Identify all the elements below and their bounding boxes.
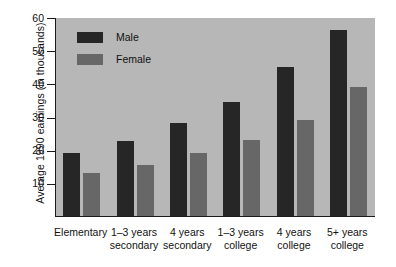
legend-item-male: Male: [77, 26, 151, 48]
bar-chart-figure: Average 1990 earnings (in thousands) 102…: [0, 0, 396, 267]
bar-female-3: [243, 140, 260, 216]
legend-label-male: Male: [116, 31, 139, 43]
bar-male-1: [117, 141, 134, 216]
y-tick-label-10: 10: [4, 178, 44, 188]
y-tick-label-30: 30: [4, 112, 44, 122]
bar-male-5: [330, 30, 347, 216]
bar-female-5: [350, 87, 367, 216]
legend-label-female: Female: [116, 53, 151, 65]
bar-female-4: [297, 120, 314, 216]
plot-area: Male Female: [55, 18, 375, 217]
bar-male-4: [277, 67, 294, 216]
y-tick-label-50: 50: [4, 46, 44, 56]
legend-item-female: Female: [77, 48, 151, 70]
bar-female-2: [190, 153, 207, 216]
legend-swatch-male-icon: [77, 32, 103, 43]
bar-male-0: [63, 153, 80, 216]
y-tick-label-60: 60: [4, 13, 44, 23]
bar-male-2: [170, 123, 187, 216]
y-tick-label-40: 40: [4, 79, 44, 89]
bar-male-3: [223, 102, 240, 216]
x-category-label-line: college: [302, 239, 392, 252]
legend-swatch-female-icon: [77, 54, 103, 65]
x-category-label-line: 5+ years: [302, 226, 392, 239]
x-category-label-5: 5+ yearscollege: [302, 226, 392, 251]
y-tick-label-20: 20: [4, 145, 44, 155]
chart-legend: Male Female: [77, 26, 151, 70]
bar-female-0: [83, 173, 100, 216]
bar-female-1: [137, 165, 154, 216]
